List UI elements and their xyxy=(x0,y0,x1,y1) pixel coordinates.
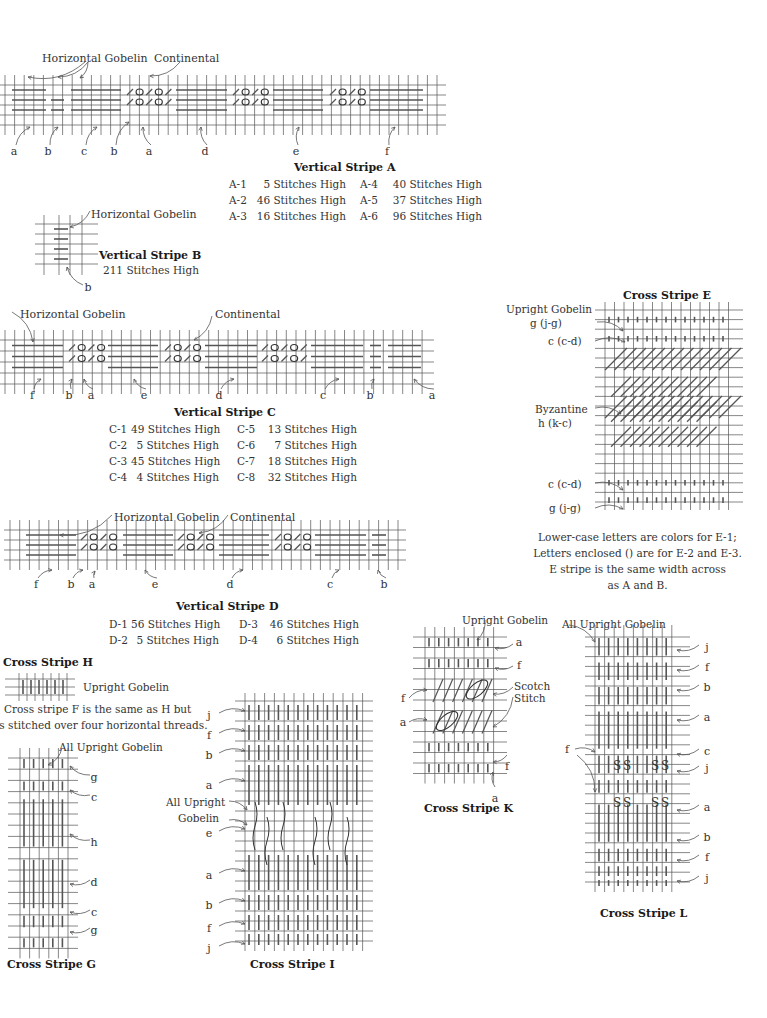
continental-stitch-circle xyxy=(242,89,249,95)
pointer-arrow xyxy=(677,749,699,755)
stripe-h-note: Cross stripe F is the same as H but is s… xyxy=(0,701,208,733)
wave-stitch: S xyxy=(623,796,631,810)
wave-stitch: S xyxy=(651,796,659,810)
stripe-e-diagram xyxy=(575,300,740,520)
continental-stitch-circle xyxy=(261,99,268,105)
color-label: f xyxy=(705,851,710,864)
spec-row: A-15 Stitches HighA-440 Stitches High xyxy=(229,176,482,192)
stripe-a-specs: A-15 Stitches HighA-440 Stitches High A-… xyxy=(229,176,482,224)
color-label: j xyxy=(703,762,708,775)
pointer-arrow xyxy=(150,62,180,76)
spec-row: D-156 Stitches HighD-346 Stitches High xyxy=(109,616,359,632)
continental-stitch-circle xyxy=(284,544,291,550)
byzantine-stitch xyxy=(719,396,741,418)
continental-stitch xyxy=(100,534,106,540)
pointer-arrow xyxy=(12,312,33,342)
color-label: c xyxy=(704,745,710,758)
pointer-arrow xyxy=(194,316,212,340)
color-label: c xyxy=(91,906,97,919)
stripe-g-title: Cross Stripe G xyxy=(7,958,96,971)
color-label: j xyxy=(205,709,210,722)
continental-stitch-circle xyxy=(291,345,298,351)
pointer-arrow xyxy=(569,625,595,642)
color-label: a xyxy=(88,389,95,402)
byzantine-stitch xyxy=(640,402,660,422)
wave-stitch xyxy=(328,802,332,850)
byzantine-stitch xyxy=(640,427,660,447)
continental-stitch xyxy=(330,89,336,95)
pointer-arrow xyxy=(219,922,245,926)
pointer-arrow xyxy=(577,755,595,792)
continental-stitch-circle xyxy=(339,89,346,95)
pointer-arrow xyxy=(677,805,699,811)
continental-stitch-circle xyxy=(242,99,249,105)
continental-stitch-circle xyxy=(339,99,346,105)
pointer-arrow xyxy=(677,715,699,721)
pointer-arrow xyxy=(677,665,699,671)
continental-stitch xyxy=(88,356,94,362)
color-label: d xyxy=(215,389,222,402)
note-line: Cross stripe F is the same as H but xyxy=(0,701,208,717)
byzantine-stitch xyxy=(649,427,669,447)
color-label: g xyxy=(90,771,97,784)
continental-stitch-circle xyxy=(261,89,268,95)
continental-stitch xyxy=(294,534,300,540)
continental-stitch xyxy=(197,534,203,540)
byzantine-stitch xyxy=(697,427,717,447)
continental-stitch xyxy=(252,99,258,105)
pointer-arrow xyxy=(677,766,699,772)
continental-stitch-circle xyxy=(187,544,194,550)
continental-stitch xyxy=(233,89,239,95)
stripe-d-diagram: fbaedcb xyxy=(0,515,410,600)
color-label: j xyxy=(703,872,708,885)
byzantine-stitch xyxy=(649,402,669,422)
color-label: f xyxy=(401,692,406,705)
continental-stitch xyxy=(349,99,355,105)
pointer-arrow xyxy=(219,942,245,946)
wave-stitch: S xyxy=(651,759,659,773)
note-line: Letters enclosed () are for E-2 and E-3. xyxy=(520,545,755,561)
callout-upright-gobelin: Upright Gobelin xyxy=(83,682,169,693)
continental-stitch xyxy=(330,99,336,105)
byzantine-stitch xyxy=(659,402,679,422)
continental-stitch-circle xyxy=(207,534,214,540)
color-label: a xyxy=(146,145,153,158)
wave-stitch: S xyxy=(613,796,621,810)
stripe-h-title: Cross Stripe H xyxy=(3,656,93,669)
color-label: b xyxy=(205,899,212,912)
note-line: Lower-case letters are colors for E-1; xyxy=(520,529,755,545)
continental-stitch xyxy=(69,356,75,362)
spec-row: C-345 Stitches HighC-718 Stitches High xyxy=(109,453,357,469)
stripe-b-title: Vertical Stripe B xyxy=(99,249,201,262)
byzantine-stitch xyxy=(630,402,650,422)
color-label: a xyxy=(704,801,711,814)
stripe-c-specs: C-149 Stitches HighC-513 Stitches High C… xyxy=(109,421,357,485)
stripe-d-title: Vertical Stripe D xyxy=(176,600,278,613)
pointer-arrow xyxy=(677,876,699,882)
spec-row: A-246 Stitches HighA-537 Stitches High xyxy=(229,192,482,208)
color-label: g xyxy=(90,924,97,937)
stripe-k-diagram: affafa xyxy=(395,622,525,792)
color-label: b xyxy=(366,389,373,402)
stripe-b-subtitle: 211 Stitches High xyxy=(103,262,199,278)
continental-stitch xyxy=(275,544,281,550)
continental-stitch-circle xyxy=(98,345,105,351)
pointer-arrow xyxy=(597,322,623,331)
continental-stitch-circle xyxy=(194,345,201,351)
continental-stitch xyxy=(275,534,281,540)
pointer-arrow xyxy=(595,407,621,414)
stripe-c-title: Vertical Stripe C xyxy=(174,406,276,419)
continental-stitch-circle xyxy=(174,345,181,351)
color-label: e xyxy=(141,389,148,402)
pointer-arrow xyxy=(70,880,90,885)
color-label: b xyxy=(67,578,74,591)
stripe-b-diagram: b xyxy=(30,215,100,295)
continental-stitch-circle xyxy=(271,345,278,351)
color-label: e xyxy=(206,827,213,840)
byzantine-stitch xyxy=(668,402,688,422)
continental-stitch-circle xyxy=(358,89,365,95)
spec-row: C-149 Stitches HighC-513 Stitches High xyxy=(109,421,357,437)
color-label: a xyxy=(11,145,18,158)
wave-stitch: S xyxy=(661,759,669,773)
continental-stitch-circle xyxy=(78,356,85,362)
